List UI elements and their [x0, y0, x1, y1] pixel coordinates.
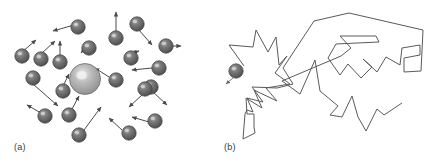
particle-highlight [75, 131, 79, 134]
panel-label-b: (b) [224, 142, 236, 152]
particle-highlight [18, 52, 22, 55]
panel-label-a: (a) [14, 142, 26, 152]
particle-highlight [41, 112, 45, 115]
small-particle [124, 51, 138, 65]
small-particle [26, 71, 40, 85]
particle-highlight [155, 64, 159, 67]
particle-highlight [112, 76, 116, 79]
particle-highlight [151, 117, 155, 120]
particle-highlight [112, 34, 116, 37]
particle-highlight [141, 85, 145, 88]
particle-highlight [125, 129, 129, 132]
small-particle [62, 108, 76, 122]
small-particle [152, 61, 166, 75]
small-particle [82, 41, 96, 55]
small-particle [122, 126, 136, 140]
small-particle [56, 84, 70, 98]
particle-highlight [37, 55, 41, 58]
small-particle [53, 55, 67, 69]
panel-a-central-sphere-group [70, 64, 101, 95]
small-particle [109, 31, 123, 45]
small-particle [130, 17, 144, 31]
small-particle [159, 39, 173, 53]
figure-svg: (a) (b) [0, 0, 435, 168]
central-particle-highlight [76, 71, 87, 80]
trajectory-start-particle [229, 64, 243, 78]
particle-highlight [65, 111, 69, 114]
small-particle [109, 73, 123, 87]
particle-highlight [133, 20, 137, 23]
particle-highlight [162, 42, 166, 45]
small-particle [72, 128, 86, 142]
particle-highlight [59, 87, 63, 90]
particle-highlight [29, 74, 33, 77]
particle-highlight [127, 54, 131, 57]
figure-container: (a) (b) [0, 0, 435, 168]
particle-highlight [74, 23, 78, 26]
small-particle [138, 82, 152, 96]
particle-highlight [85, 44, 89, 47]
small-particle [34, 52, 48, 66]
central-large-particle [70, 64, 101, 95]
particle-highlight [56, 58, 60, 61]
small-particle [15, 49, 29, 63]
trajectory-start-highlight [232, 67, 236, 70]
small-particle [38, 109, 52, 123]
small-particle [71, 20, 85, 34]
small-particle [148, 114, 162, 128]
